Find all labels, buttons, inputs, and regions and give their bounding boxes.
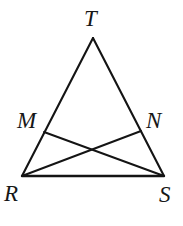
segment-MS bbox=[44, 132, 164, 176]
vertex-label-R: R bbox=[4, 182, 18, 205]
vertex-label-T: T bbox=[84, 7, 97, 30]
vertex-label-S: S bbox=[159, 183, 171, 206]
vertex-label-N: N bbox=[146, 109, 161, 132]
segment-TR bbox=[22, 38, 93, 176]
geometry-figure: T M N R S bbox=[0, 0, 183, 226]
vertex-label-M: M bbox=[17, 109, 36, 132]
segment-NR bbox=[22, 131, 141, 176]
segment-TS bbox=[93, 38, 164, 176]
